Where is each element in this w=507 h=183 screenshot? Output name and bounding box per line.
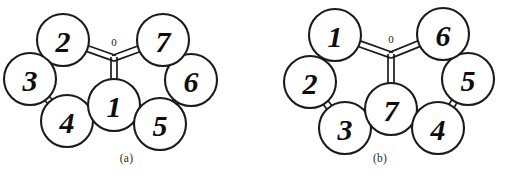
graph-node-4[interactable]: 4 xyxy=(41,95,93,147)
graph-node-3[interactable]: 3 xyxy=(319,102,371,154)
node-label-5: 5 xyxy=(461,64,476,97)
node-label-7: 7 xyxy=(156,25,172,58)
node-label-4: 4 xyxy=(59,106,75,139)
node-label-2: 2 xyxy=(55,25,71,58)
node-label-3: 3 xyxy=(337,113,353,146)
graph-node-3[interactable]: 3 xyxy=(4,53,56,105)
graph-node-1[interactable]: 1 xyxy=(88,79,140,131)
center-zero-label: 0 xyxy=(388,33,394,45)
node-label-5: 5 xyxy=(153,109,168,142)
node-label-4: 4 xyxy=(430,113,446,146)
node-label-1: 1 xyxy=(107,90,122,123)
graph-node-2[interactable]: 2 xyxy=(284,56,336,108)
graph-node-1[interactable]: 1 xyxy=(309,9,361,61)
panel-caption-a: (a) xyxy=(0,152,253,164)
node-label-1: 1 xyxy=(328,20,343,53)
panel-caption-b: (b) xyxy=(253,152,507,164)
graph-node-5[interactable]: 5 xyxy=(134,98,186,150)
node-label-3: 3 xyxy=(22,64,38,97)
figure-root: 23415670 (a) 12374560 (b) xyxy=(0,0,507,183)
node-label-6: 6 xyxy=(436,19,451,52)
diagram-panel-a: 23415670 (a) xyxy=(0,0,253,183)
graph-node-5[interactable]: 5 xyxy=(442,53,494,105)
center-zero-label: 0 xyxy=(111,36,117,48)
graph-node-7[interactable]: 7 xyxy=(137,14,189,66)
graph-node-4[interactable]: 4 xyxy=(412,102,464,154)
diagram-panel-b: 12374560 (b) xyxy=(253,0,507,183)
graph-node-6[interactable]: 6 xyxy=(417,8,469,60)
node-label-6: 6 xyxy=(184,65,199,98)
graph-node-7[interactable]: 7 xyxy=(365,83,417,135)
node-label-7: 7 xyxy=(384,94,400,127)
node-label-2: 2 xyxy=(302,67,318,100)
